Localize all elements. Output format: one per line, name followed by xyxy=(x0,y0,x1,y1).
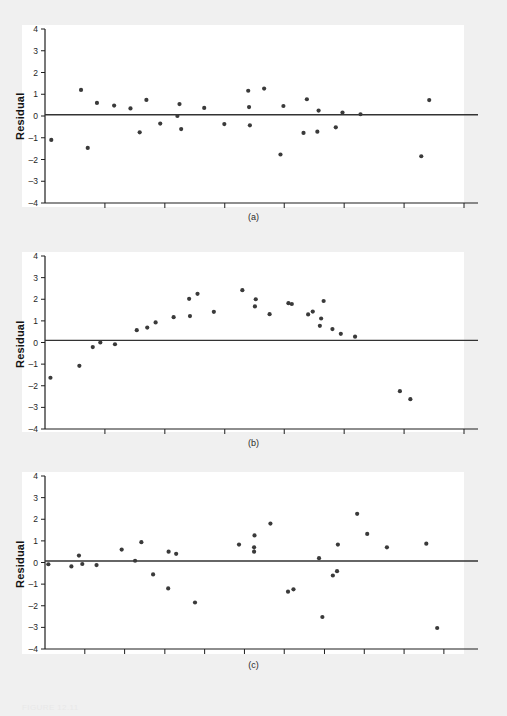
data-point xyxy=(301,131,305,135)
data-point xyxy=(330,327,334,331)
data-point xyxy=(139,540,143,544)
data-point xyxy=(253,304,257,308)
data-point xyxy=(91,345,95,349)
y-tick-label: 4 xyxy=(33,251,38,261)
data-point xyxy=(79,88,83,92)
y-tick-label: –2 xyxy=(29,381,39,391)
data-point xyxy=(248,123,252,127)
data-point xyxy=(408,397,412,401)
data-point xyxy=(48,376,52,380)
data-point xyxy=(247,105,251,109)
y-tick-label: 1 xyxy=(33,316,38,326)
data-point xyxy=(202,106,206,110)
data-point xyxy=(427,98,431,102)
y-tick-label: –2 xyxy=(29,155,39,165)
data-point xyxy=(317,108,321,112)
data-point xyxy=(331,573,335,577)
data-point xyxy=(95,101,99,105)
data-point xyxy=(286,590,290,594)
data-point xyxy=(281,104,285,108)
data-point xyxy=(306,312,310,316)
data-point xyxy=(151,572,155,576)
data-point xyxy=(385,545,389,549)
data-point xyxy=(290,302,294,306)
y-tick-label: –3 xyxy=(29,622,39,632)
data-point xyxy=(98,340,102,344)
data-point xyxy=(262,86,266,90)
data-point xyxy=(322,299,326,303)
data-point xyxy=(278,152,282,156)
y-tick-label: –3 xyxy=(29,402,39,412)
data-point xyxy=(144,98,148,102)
data-point xyxy=(77,553,81,557)
panel-caption-b: (b) xyxy=(0,438,507,448)
scatter-plot-a: 43210–1–2–3–4 xyxy=(0,0,507,230)
data-point xyxy=(340,110,344,114)
residual-plot-panel-b: Residual 43210–1–2–3–4 (b) xyxy=(0,230,507,458)
data-point xyxy=(252,533,256,537)
data-point xyxy=(195,292,199,296)
panel-caption-c: (c) xyxy=(0,660,507,670)
data-point xyxy=(336,542,340,546)
data-point xyxy=(80,562,84,566)
data-point xyxy=(311,309,315,313)
data-point xyxy=(158,122,162,126)
data-point xyxy=(398,389,402,393)
data-point xyxy=(172,315,176,319)
data-point xyxy=(268,521,272,525)
y-tick-label: 3 xyxy=(33,273,38,283)
y-tick-label: –4 xyxy=(29,424,39,434)
y-tick-label: –1 xyxy=(29,579,39,589)
y-tick-label: –4 xyxy=(29,644,39,654)
data-point xyxy=(267,312,271,316)
data-point xyxy=(113,342,117,346)
data-point xyxy=(188,314,192,318)
data-point xyxy=(179,127,183,131)
data-point xyxy=(319,316,323,320)
y-tick-label: 1 xyxy=(33,536,38,546)
y-tick-label: 2 xyxy=(33,68,38,78)
y-tick-label: 2 xyxy=(33,294,38,304)
data-point xyxy=(358,112,362,116)
data-point xyxy=(424,542,428,546)
y-tick-label: 2 xyxy=(33,514,38,524)
y-tick-label: 3 xyxy=(33,46,38,56)
y-tick-label: 0 xyxy=(33,558,38,568)
data-point xyxy=(120,547,124,551)
y-tick-label: 3 xyxy=(33,493,38,503)
data-point xyxy=(69,564,73,568)
data-point xyxy=(193,600,197,604)
data-point xyxy=(318,324,322,328)
data-point xyxy=(177,102,181,106)
data-point xyxy=(187,297,191,301)
data-point xyxy=(339,332,343,336)
residual-plot-panel-c: Residual 43210–1–2–3–4 (c) xyxy=(0,458,507,696)
y-tick-label: –2 xyxy=(29,601,39,611)
data-point xyxy=(252,550,256,554)
data-point xyxy=(317,556,321,560)
data-point xyxy=(335,569,339,573)
data-point xyxy=(252,545,256,549)
data-point xyxy=(86,146,90,150)
data-point xyxy=(77,364,81,368)
y-tick-label: –1 xyxy=(29,133,39,143)
data-point xyxy=(246,89,250,93)
data-point xyxy=(49,138,53,142)
data-point xyxy=(154,320,158,324)
y-tick-label: –1 xyxy=(29,359,39,369)
data-point xyxy=(94,563,98,567)
data-point xyxy=(128,106,132,110)
data-point xyxy=(135,328,139,332)
data-point xyxy=(291,587,295,591)
y-tick-label: –4 xyxy=(29,198,39,208)
y-tick-label: 1 xyxy=(33,89,38,99)
data-point xyxy=(222,122,226,126)
data-point xyxy=(133,559,137,563)
panel-caption-a: (a) xyxy=(0,212,507,222)
y-tick-label: 0 xyxy=(33,111,38,121)
data-point xyxy=(353,335,357,339)
y-tick-label: 0 xyxy=(33,338,38,348)
data-point xyxy=(355,512,359,516)
residual-plot-panel-a: Residual 43210–1–2–3–4 (a) xyxy=(0,0,507,230)
data-point xyxy=(174,552,178,556)
